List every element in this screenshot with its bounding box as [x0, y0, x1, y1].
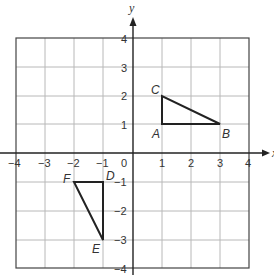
vertex-label-f: F [63, 172, 71, 186]
x-tick: 1 [159, 157, 165, 169]
x-tick: −3 [38, 157, 51, 169]
y-tick: −3 [114, 234, 127, 246]
y-tick: −4 [114, 263, 127, 275]
x-axis [0, 150, 270, 157]
vertex-label-d: D [106, 169, 115, 183]
x-tick: 4 [245, 157, 251, 169]
vertex-label-b: B [222, 127, 230, 141]
y-tick: −2 [114, 205, 127, 217]
x-tick: −1 [96, 157, 109, 169]
y-axis-label: y [128, 1, 135, 15]
x-tick-labels: −4 −3 −2 −1 0 1 2 3 4 [8, 157, 251, 169]
x-tick: 0 [121, 157, 127, 169]
y-tick: 3 [121, 62, 127, 74]
y-tick: 1 [121, 119, 127, 131]
y-tick-labels: 4 3 2 1 −1 −2 −3 −4 [114, 33, 127, 275]
vertex-label-a: A [151, 127, 160, 141]
y-tick: −1 [114, 176, 127, 188]
y-tick: 4 [121, 33, 127, 45]
x-tick: 2 [188, 157, 194, 169]
y-tick: 2 [121, 90, 127, 102]
coordinate-plane: x y −4 −3 −2 −1 0 1 2 3 4 4 3 2 1 −1 −2 … [0, 0, 274, 278]
vertex-label-e: E [92, 242, 101, 256]
x-axis-arrow-icon [262, 150, 270, 157]
y-axis-arrow-icon [130, 17, 137, 26]
x-axis-label: x [271, 146, 274, 160]
x-tick: −4 [8, 157, 21, 169]
x-tick: 3 [217, 157, 223, 169]
vertex-label-c: C [151, 83, 160, 97]
x-tick: −2 [67, 157, 80, 169]
y-axis [130, 17, 137, 275]
